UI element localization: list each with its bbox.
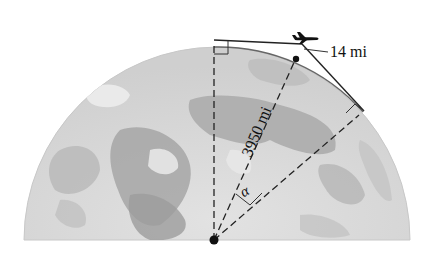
globe <box>24 47 410 240</box>
airplane-icon <box>292 32 319 44</box>
altitude-label: 14 mi <box>330 43 367 60</box>
surface-point <box>293 56 299 62</box>
earth-diagram: α 3950 mi 14 mi <box>0 0 425 265</box>
center-point <box>210 236 219 245</box>
